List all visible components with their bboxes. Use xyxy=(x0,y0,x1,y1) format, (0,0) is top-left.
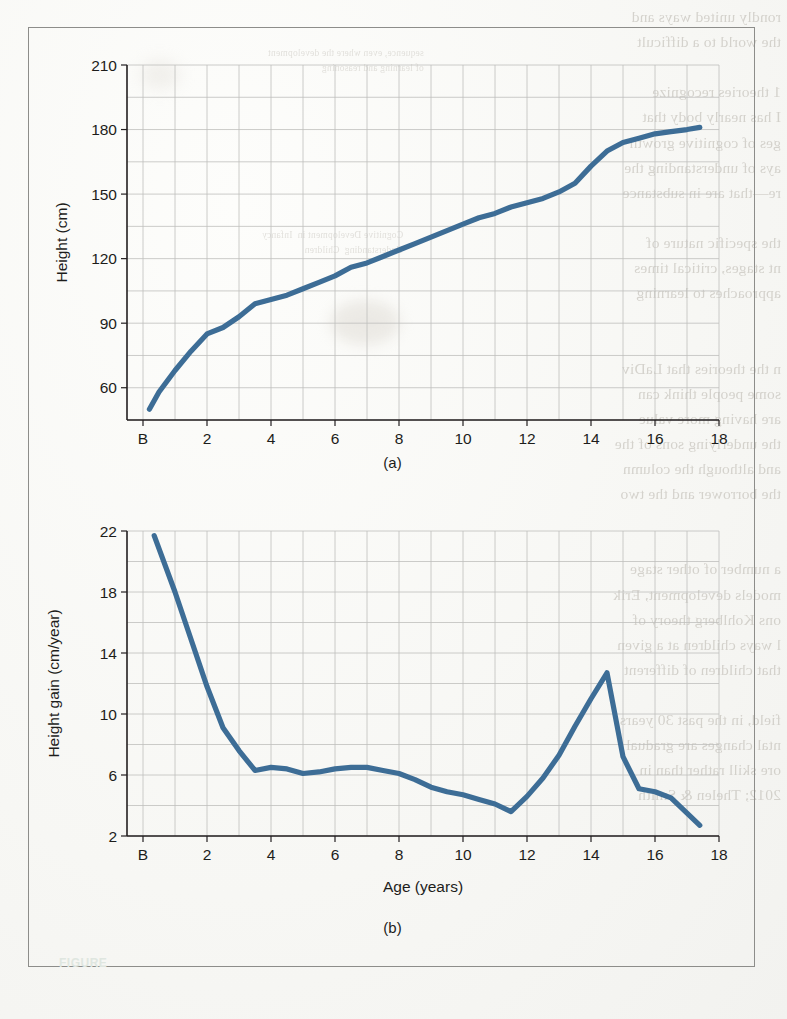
y-tick-label: 22 xyxy=(100,523,117,540)
y-tick-label: 10 xyxy=(100,706,118,723)
x-tick-label: 8 xyxy=(395,846,404,863)
y-tick-label: 180 xyxy=(91,121,117,138)
y-tick-label: 60 xyxy=(100,379,118,396)
y-tick-label: 2 xyxy=(108,828,117,845)
x-tick-label: 6 xyxy=(331,430,340,447)
y-axis-title: Height (cm) xyxy=(53,202,70,282)
y-tick-label: 90 xyxy=(100,315,118,332)
panel-a-caption: (a) xyxy=(29,454,756,471)
x-tick-label: 14 xyxy=(582,430,600,447)
x-tick-label: 2 xyxy=(203,846,212,863)
x-tick-label: B xyxy=(138,846,148,863)
x-tick-label: 8 xyxy=(395,430,404,447)
x-tick-label: 2 xyxy=(203,430,212,447)
panel-b-caption: (b) xyxy=(29,919,756,936)
data-series-line xyxy=(154,536,700,826)
figure-frame: 6090120150180210B24681012141618Age (year… xyxy=(28,27,755,967)
x-tick-label: 12 xyxy=(518,846,535,863)
x-tick-label: 12 xyxy=(518,430,535,447)
x-axis-title: Age (years) xyxy=(383,878,463,895)
x-tick-label: 16 xyxy=(646,846,663,863)
x-tick-label: 10 xyxy=(454,430,472,447)
height-by-age-chart: 6090120150180210B24681012141618Age (year… xyxy=(29,30,756,450)
figure-label: FIGURE xyxy=(59,956,107,970)
y-tick-label: 18 xyxy=(100,584,117,601)
chart-panel-b: 2610141822B24681012141618Age (years)Heig… xyxy=(29,506,756,961)
data-series-line xyxy=(149,127,699,409)
y-tick-label: 210 xyxy=(91,57,117,74)
y-tick-label: 120 xyxy=(91,250,117,267)
y-tick-label: 6 xyxy=(108,767,117,784)
x-tick-label: 14 xyxy=(582,846,600,863)
x-tick-label: 4 xyxy=(267,846,276,863)
height-gain-by-age-chart: 2610141822B24681012141618Age (years)Heig… xyxy=(29,506,756,916)
x-tick-label: 4 xyxy=(267,430,276,447)
x-tick-label: 10 xyxy=(454,846,472,863)
x-tick-label: 16 xyxy=(646,430,663,447)
x-tick-label: 18 xyxy=(710,430,727,447)
y-axis-title: Height gain (cm/year) xyxy=(45,609,62,757)
chart-panel-a: 6090120150180210B24681012141618Age (year… xyxy=(29,30,756,500)
y-tick-label: 150 xyxy=(91,186,117,203)
x-tick-label: 6 xyxy=(331,846,340,863)
y-tick-label: 14 xyxy=(100,645,118,662)
x-tick-label: B xyxy=(138,430,148,447)
x-tick-label: 18 xyxy=(710,846,727,863)
